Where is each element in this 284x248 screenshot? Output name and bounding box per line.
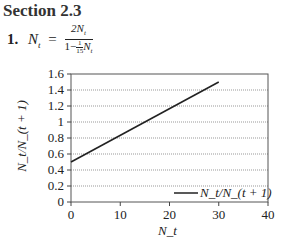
- y-tick-label: 0.4: [48, 162, 65, 177]
- y-tick-label: 1.4: [48, 82, 65, 97]
- x-axis: 010203040: [68, 202, 275, 222]
- line-chart: 00.20.40.60.811.21.41.6 010203040 N_t/N_…: [0, 0, 284, 248]
- legend: N_t/N_(t + 1): [174, 185, 272, 200]
- y-tick-label: 1: [58, 114, 65, 129]
- legend-label: N_t/N_(t + 1): [199, 185, 272, 200]
- x-tick-label: 20: [163, 207, 176, 222]
- y-tick-label: 0.8: [48, 130, 64, 145]
- x-tick-label: 40: [262, 207, 275, 222]
- y-tick-label: 0.2: [48, 178, 64, 193]
- x-tick-label: 30: [212, 207, 225, 222]
- y-tick-label: 1.6: [48, 66, 65, 81]
- x-axis-title: N_t: [157, 223, 177, 238]
- y-tick-label: 0.6: [48, 146, 65, 161]
- x-tick-label: 0: [68, 207, 75, 222]
- x-tick-label: 10: [114, 207, 127, 222]
- y-axis: 00.20.40.60.811.21.41.6: [48, 66, 71, 209]
- gridlines: [71, 90, 268, 186]
- y-axis-title: N_t/N_(t + 1): [14, 100, 29, 173]
- y-tick-label: 0: [58, 194, 65, 209]
- y-tick-label: 1.2: [48, 98, 64, 113]
